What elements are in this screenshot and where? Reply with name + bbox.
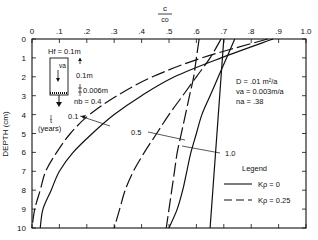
legend-dashed-label: Kρ = 0.25 (258, 196, 290, 205)
param-velocity: va = 0.003m/a (236, 87, 285, 96)
x-tick-label: 0 (30, 27, 35, 36)
y-tick-label: 6 (22, 148, 27, 157)
x-tick-label: .5 (166, 27, 173, 36)
y-tick-label: 3 (22, 92, 27, 101)
x-tick-label: .7 (220, 27, 227, 36)
y-tick-label: 0 (22, 35, 27, 44)
y-tick-label: 8 (22, 186, 27, 195)
y-tick-label: 7 (22, 167, 27, 176)
time-unit-label: (years) (38, 124, 62, 133)
legend-title: Legend (242, 164, 267, 173)
label-t-0-1: 0.1 (68, 112, 78, 121)
y-tick-label: 10 (17, 224, 26, 233)
x-axis-title: c co (158, 4, 172, 23)
legend: Legend Kρ = 0 Kρ = 0.25 (224, 164, 290, 205)
x-tick-label: .2 (83, 27, 90, 36)
parameter-block: D = .01 m²/a va = 0.003m/a na = .38 (236, 77, 285, 106)
label-t-1-0: 1.0 (225, 149, 235, 158)
x-tick-label: .4 (138, 27, 145, 36)
depth-concentration-chart: c co DEPTH (cm) 0.1.2.3.4.5.6.7.8.91.0 0… (0, 0, 318, 240)
x-tick-label: 1.0 (300, 27, 312, 36)
y-tick-label: 5 (22, 130, 27, 139)
legend-solid-label: Kρ = 0 (258, 180, 280, 189)
label-t-0-5: 0.5 (131, 128, 141, 137)
curve-kp-0-t1 (210, 39, 224, 228)
param-diffusion: D = .01 m²/a (236, 77, 278, 86)
curve-kp-025-t1 (166, 39, 199, 228)
y-axis-title: DEPTH (cm) (1, 111, 10, 157)
x-axis-title-numerator: c (163, 4, 167, 13)
base-thickness-label: 0.006m (83, 86, 108, 95)
nb-label: nb = 0.4 (74, 97, 101, 106)
y-tick-label: 1 (22, 54, 27, 63)
param-porosity: na = .38 (236, 97, 263, 106)
x-tick-label: .3 (111, 27, 118, 36)
hf-label: Hf = 0.1m (48, 47, 81, 56)
x-tick-label: .9 (275, 27, 282, 36)
y-tick-label: 2 (22, 73, 27, 82)
height-label: 0.1m (76, 71, 93, 80)
x-axis-title-denominator: co (161, 16, 169, 23)
curve-labels: 0.1 0.5 1.0 (68, 112, 235, 158)
x-tick-label: .6 (193, 27, 200, 36)
x-tick-label: .8 (248, 27, 255, 36)
va-label: va (59, 62, 66, 69)
x-tick-label: .1 (56, 27, 63, 36)
y-tick-label: 4 (22, 111, 27, 120)
y-tick-label: 9 (22, 205, 27, 214)
